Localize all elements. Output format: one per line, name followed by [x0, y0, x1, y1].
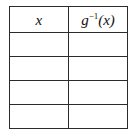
cell-x-value[interactable] [10, 81, 69, 105]
cell-g-inverse-value[interactable] [69, 33, 128, 57]
table-row [10, 105, 128, 129]
cell-x-value[interactable] [10, 33, 69, 57]
table-header-row: x g−1(x) [10, 7, 128, 33]
table-row [10, 81, 128, 105]
function-table-figure: x g−1(x) [9, 6, 127, 120]
cell-g-inverse-value[interactable] [69, 105, 128, 129]
table-row [10, 33, 128, 57]
superscript-minus-one: −1 [89, 11, 99, 21]
table-row [10, 57, 128, 81]
header-cell-g-inverse: g−1(x) [69, 7, 128, 33]
inverse-function-table: x g−1(x) [9, 6, 128, 129]
header-label-x: x [36, 12, 43, 28]
header-label-g-inverse: g−1(x) [81, 12, 115, 28]
cell-g-inverse-value[interactable] [69, 81, 128, 105]
cell-x-value[interactable] [10, 105, 69, 129]
cell-g-inverse-value[interactable] [69, 57, 128, 81]
function-name-g: g [81, 12, 89, 28]
header-cell-x: x [10, 7, 69, 33]
cell-x-value[interactable] [10, 57, 69, 81]
function-argument-x: (x) [98, 12, 115, 28]
